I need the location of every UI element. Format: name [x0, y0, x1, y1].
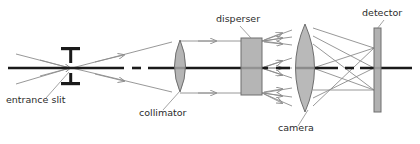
leader-lines-group [46, 20, 384, 126]
diverging-ray-upper [72, 42, 172, 68]
dispersed-ray-center-3-arrow [264, 69, 282, 75]
disperser-block[interactable] [241, 38, 262, 95]
collimator-lens-body [175, 40, 186, 92]
focus-b-ray-1 [313, 36, 374, 68]
focus-a-ray-3 [313, 48, 374, 106]
collimator-lens[interactable] [175, 40, 186, 92]
slit-post-upper [69, 47, 72, 63]
camera-lens[interactable] [296, 24, 315, 112]
label-camera: camera [278, 122, 314, 133]
focus-c-ray-2 [313, 68, 374, 90]
slit-post-lower [69, 73, 72, 85]
focus-a-ray-1 [313, 28, 374, 48]
dispersed-ray-lower-1 [262, 88, 292, 93]
label-entrance-slit: entrance slit [6, 94, 66, 105]
diverging-ray-lower-arrow [95, 74, 124, 81]
optical-diagram: entrance slit collimator disperser camer… [0, 0, 420, 144]
detector-body [374, 28, 381, 112]
label-detector: detector [362, 7, 402, 18]
label-collimator: collimator [139, 107, 187, 118]
label-disperser: disperser [216, 13, 260, 24]
diverging-ray-upper-arrow [95, 55, 124, 62]
diagram-canvas: entrance slit collimator disperser camer… [0, 0, 420, 144]
dispersed-ray-center-1-arrow [264, 61, 282, 67]
disperser-body [241, 38, 262, 95]
leader-disperser [240, 26, 251, 38]
detector-panel[interactable] [374, 28, 381, 112]
camera-lens-body [296, 24, 315, 112]
diverging-ray-lower [72, 68, 172, 92]
